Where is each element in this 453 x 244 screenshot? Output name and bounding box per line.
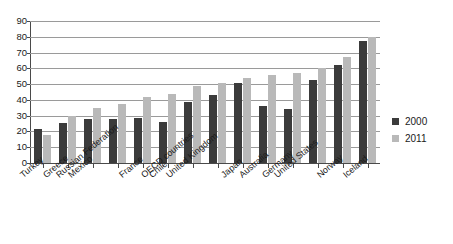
- y-axis-tick-label: 60: [3, 63, 27, 72]
- legend-swatch: [392, 118, 399, 125]
- bar-group: [359, 21, 377, 163]
- bar-group: [284, 21, 302, 163]
- x-axis-tick-mark: [343, 164, 344, 168]
- legend-item: 2000: [392, 113, 450, 130]
- y-axis-tick-labels: 0102030405060708090: [0, 21, 27, 163]
- bar: [234, 83, 243, 163]
- bar: [143, 97, 152, 163]
- x-axis-tick-mark: [193, 164, 194, 168]
- bar: [268, 75, 277, 163]
- x-axis-tick-mark: [218, 164, 219, 168]
- y-axis-tick-label: 50: [3, 79, 27, 88]
- gridline: [30, 37, 380, 38]
- y-axis-tick-label: 30: [3, 111, 27, 120]
- legend-item: 2011: [392, 130, 450, 147]
- bar-chart: 0102030405060708090 TurkeyGreeceMexicoRu…: [0, 0, 453, 244]
- gridline: [30, 131, 380, 132]
- bar-group: [259, 21, 277, 163]
- x-axis-tick-mark: [43, 164, 44, 168]
- bar-group: [109, 21, 127, 163]
- legend-label: 2011: [405, 134, 427, 144]
- y-axis-tick-label: 40: [3, 95, 27, 104]
- x-axis-tick-mark: [118, 164, 119, 168]
- bar: [343, 57, 352, 164]
- x-axis-tick-mark: [368, 164, 369, 168]
- bar: [118, 104, 127, 163]
- bar: [368, 37, 377, 163]
- legend-label: 2000: [405, 117, 427, 127]
- legend-swatch: [392, 135, 399, 142]
- gridline: [30, 116, 380, 117]
- bar: [318, 68, 327, 163]
- x-axis-category-labels: TurkeyGreeceMexicoRussian FederationFran…: [30, 164, 380, 244]
- bar-group: [34, 21, 52, 163]
- bar: [43, 135, 52, 163]
- bar: [243, 78, 252, 163]
- bar-group: [334, 21, 352, 163]
- y-axis-tick-label: 20: [3, 126, 27, 135]
- x-axis-tick-mark: [93, 164, 94, 168]
- bar: [209, 95, 218, 163]
- bar: [359, 41, 368, 163]
- y-axis-tick-label: 80: [3, 32, 27, 41]
- gridline: [30, 53, 380, 54]
- y-axis-tick-label: 10: [3, 142, 27, 151]
- gridline: [30, 100, 380, 101]
- gridline: [30, 21, 380, 22]
- gridline: [30, 84, 380, 85]
- y-axis-tick-label: 70: [3, 48, 27, 57]
- bar-group: [59, 21, 77, 163]
- bar-group: [134, 21, 152, 163]
- gridline: [30, 68, 380, 69]
- chart-legend: 20002011: [392, 113, 450, 147]
- bar: [334, 65, 343, 163]
- bar: [218, 83, 227, 163]
- y-axis-tick-label: 90: [3, 16, 27, 25]
- bar-group: [234, 21, 252, 163]
